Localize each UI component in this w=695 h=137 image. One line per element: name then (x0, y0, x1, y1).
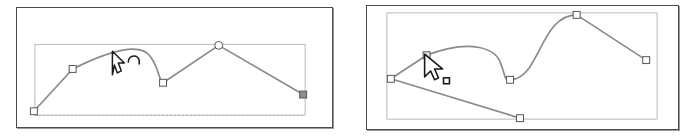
panel-after-canvas (367, 6, 678, 129)
node-right[interactable] (643, 57, 650, 64)
panel-before-canvas (17, 8, 332, 127)
node-curve-1[interactable] (69, 66, 76, 73)
figure-root: Before drag After drag Node editing: dra… (0, 0, 695, 137)
node-peak[interactable] (215, 41, 223, 49)
node-start[interactable] (30, 108, 37, 115)
cursor-arrow-icon (425, 54, 443, 80)
cursor-arrow-icon (112, 51, 124, 75)
panel-after-drag (366, 5, 679, 130)
cursor-curve-badge-icon (128, 56, 139, 64)
node-valley[interactable] (507, 76, 514, 83)
vector-path[interactable] (34, 45, 303, 111)
drag-node-cursor (425, 54, 450, 84)
node-end[interactable] (300, 91, 307, 98)
node-start[interactable] (387, 75, 394, 82)
node-valley[interactable] (160, 79, 167, 86)
node-peak[interactable] (573, 11, 580, 18)
lower-leg-path[interactable] (391, 79, 520, 118)
node-tool-cursor (112, 51, 139, 75)
node-bottom[interactable] (517, 115, 524, 122)
panel-before-drag (16, 7, 333, 128)
selection-bounding-box[interactable] (35, 44, 305, 115)
cursor-square-badge-icon (444, 78, 450, 84)
